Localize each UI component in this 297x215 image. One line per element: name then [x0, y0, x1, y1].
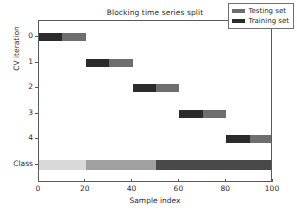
tick-mark — [35, 36, 38, 37]
tick-mark — [272, 179, 273, 182]
x-axis-label: Sample index — [38, 196, 272, 205]
legend-item[interactable]: Training set — [232, 16, 289, 26]
bar-segment — [109, 59, 132, 67]
x-tick-label: 80 — [220, 184, 230, 193]
legend-label: Testing set — [248, 6, 286, 16]
plot-area — [38, 20, 272, 182]
tick-mark — [35, 87, 38, 88]
legend-item[interactable]: Testing set — [232, 6, 289, 16]
x-tick-label: 40 — [127, 184, 137, 193]
y-axis-label: CV iteration — [12, 9, 21, 89]
x-tick-label: 0 — [36, 184, 41, 193]
bar-segment — [179, 110, 202, 118]
tick-mark — [35, 113, 38, 114]
bar-segment — [156, 160, 272, 170]
tick-mark — [35, 164, 38, 165]
legend-swatch-icon — [232, 9, 245, 13]
tick-mark — [35, 138, 38, 139]
tick-mark — [178, 179, 179, 182]
bar-segment — [39, 160, 86, 170]
x-tick-label: 20 — [80, 184, 90, 193]
bar-segment — [250, 135, 272, 143]
bar-segment — [39, 33, 62, 41]
bar-segment — [156, 84, 179, 92]
y-tick-label: 0 — [28, 31, 33, 40]
x-tick-label: 100 — [265, 184, 279, 193]
legend-swatch-icon — [232, 19, 245, 23]
bar-segment — [86, 59, 109, 67]
y-tick-label: 4 — [28, 133, 33, 142]
bar-segment — [62, 33, 85, 41]
bar-segment — [203, 110, 226, 118]
chart-legend: Testing setTraining set — [228, 3, 294, 29]
tick-mark — [35, 62, 38, 63]
tick-mark — [131, 179, 132, 182]
tick-mark — [38, 179, 39, 182]
legend-label: Training set — [248, 16, 289, 26]
y-tick-label: 3 — [28, 108, 33, 117]
tick-mark — [84, 179, 85, 182]
bar-segment — [86, 160, 156, 170]
chart-figure: Blocking time series split CV iteration … — [0, 0, 297, 215]
x-tick-label: 60 — [174, 184, 184, 193]
y-tick-label: Class — [13, 159, 33, 168]
y-tick-label: 1 — [28, 57, 33, 66]
bar-segment — [226, 135, 249, 143]
bar-segment — [133, 84, 156, 92]
tick-mark — [225, 179, 226, 182]
y-tick-label: 2 — [28, 82, 33, 91]
